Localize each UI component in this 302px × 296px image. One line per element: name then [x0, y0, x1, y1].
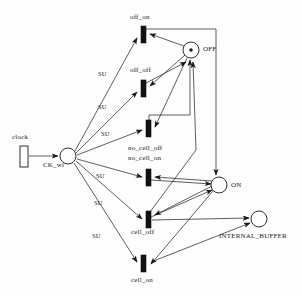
- transition-cell_off[interactable]: [146, 211, 151, 228]
- label-cell_off: cell_off: [131, 229, 154, 236]
- transition-no_cell_on[interactable]: [146, 169, 151, 186]
- label-clock: clock: [12, 134, 28, 141]
- arc-on-to-cell_on: [151, 191, 213, 264]
- arc-off-to-off_off: [150, 55, 185, 86]
- transition-off_off[interactable]: [141, 80, 146, 97]
- label-no_cell_off: no_cell_off: [128, 145, 162, 152]
- label-on-place: ON: [231, 182, 242, 189]
- arc-ckwi-to-cell_on: [74, 163, 137, 262]
- arc-cell_off-to-internal_buffer: [152, 218, 249, 220]
- arc-on-to-no_cell_on: [155, 177, 212, 181]
- arc-label-su-3: SU: [101, 131, 110, 138]
- arc-cell_on-to-internal_buffer: [151, 223, 250, 262]
- arc-cell_off-to-off: [150, 62, 196, 212]
- arc-on-to-cell_off: [155, 186, 212, 215]
- petri-net-diagram: off_on off_off no_cell_off no_cell_on ce…: [0, 0, 302, 296]
- transition-no_cell_off[interactable]: [146, 120, 151, 137]
- label-off_on: off_on: [130, 14, 150, 21]
- arc-cell_off-to-on: [151, 190, 212, 217]
- label-cell_on: cell_on: [131, 277, 153, 284]
- arc-label-su-2: SU: [98, 104, 107, 111]
- arc-off-to-off_on: [150, 34, 184, 46]
- label-internal-buffer: INTERNAL_BUFFER: [219, 233, 287, 240]
- arc-label-su-6: SU: [92, 233, 101, 240]
- arc-label-su-1: SU: [98, 71, 107, 78]
- arc-label-su-4: SU: [96, 173, 105, 180]
- arc-label-su-5: SU: [94, 200, 103, 207]
- transition-clock[interactable]: [20, 146, 28, 167]
- label-no_cell_on: no_cell_on: [128, 155, 161, 162]
- places-group: [60, 42, 267, 227]
- transition-cell_on[interactable]: [141, 255, 146, 272]
- arc-off-to-no_cell_off: [155, 58, 187, 127]
- arc-ckwi-to-cell_off: [76, 161, 142, 219]
- place-ON[interactable]: [211, 177, 227, 193]
- label-ck_wi: CK_wi: [43, 162, 64, 169]
- label-off_off: off_off: [130, 67, 151, 74]
- transition-off_on[interactable]: [141, 26, 146, 43]
- place-OFF-token: [189, 48, 193, 52]
- place-INTERNAL_BUFFER[interactable]: [251, 211, 267, 227]
- label-off-place: OFF: [203, 46, 216, 53]
